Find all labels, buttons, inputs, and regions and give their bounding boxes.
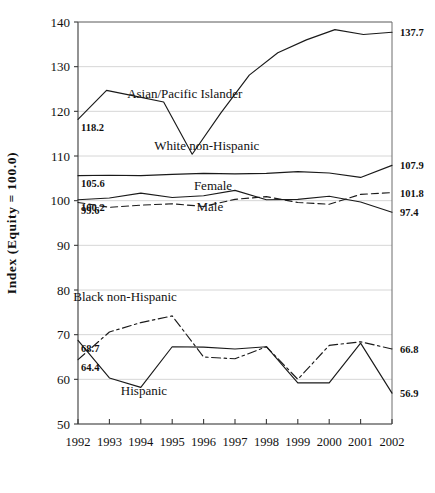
start-value-annotation: 68.7 xyxy=(81,343,99,354)
y-axis-title: Index (Equity = 100.0) xyxy=(4,152,19,294)
x-tick-label: 1992 xyxy=(66,435,91,449)
y-axis-tick-labels: 5060708090100110120130140 xyxy=(51,15,71,432)
series-label-hispanic: Hispanic xyxy=(121,383,167,398)
x-tick-label: 1996 xyxy=(191,435,216,449)
end-value-annotation: 101.8 xyxy=(400,188,424,199)
end-value-annotation: 107.9 xyxy=(400,160,424,171)
x-tick-label: 1994 xyxy=(128,435,154,449)
y-tick-label: 120 xyxy=(51,104,71,119)
y-tick-label: 140 xyxy=(51,15,71,30)
x-tick-label: 1995 xyxy=(160,435,185,449)
series-label-female: Female xyxy=(194,178,232,193)
x-axis-tick-labels: 1992199319941995199619971998199920002001… xyxy=(66,435,405,449)
y-tick-label: 80 xyxy=(57,283,70,298)
series-line-female xyxy=(78,193,392,208)
x-tick-label: 1999 xyxy=(285,435,310,449)
start-value-annotation: 99.6 xyxy=(81,205,99,216)
x-tick-label: 1997 xyxy=(223,435,248,449)
series-line-white-non-hispanic xyxy=(78,165,392,177)
end-value-annotation: 137.7 xyxy=(400,27,424,38)
line-chart: 5060708090100110120130140 19921993199419… xyxy=(0,0,435,493)
series-label-white-non-hispanic: White non-Hispanic xyxy=(154,138,259,153)
y-tick-label: 110 xyxy=(51,149,70,164)
y-tick-label: 70 xyxy=(57,327,70,342)
y-tick-label: 50 xyxy=(57,417,70,432)
x-tick-label: 2000 xyxy=(317,435,342,449)
end-value-annotation: 56.9 xyxy=(400,388,418,399)
chart-canvas: 5060708090100110120130140 19921993199419… xyxy=(0,0,435,493)
series-lines xyxy=(78,30,392,394)
series-label-male: Male xyxy=(197,199,224,214)
x-tick-label: 2002 xyxy=(380,435,405,449)
series-line-male xyxy=(78,190,392,212)
start-value-annotation: 118.2 xyxy=(81,122,104,133)
series-label-asian-pacific-islander: Asian/Pacific Islander xyxy=(127,86,243,101)
end-value-annotation: 66.8 xyxy=(400,344,418,355)
y-axis-title: Index (Equity = 100.0) xyxy=(4,152,19,294)
series-line-black-non-hispanic xyxy=(78,316,392,379)
y-tick-label: 100 xyxy=(51,193,71,208)
x-tick-label: 2001 xyxy=(348,435,373,449)
series-label-black-non-hispanic: Black non-Hispanic xyxy=(73,289,177,304)
start-value-annotation: 64.4 xyxy=(81,362,100,373)
y-tick-label: 60 xyxy=(57,372,70,387)
x-tick-label: 1993 xyxy=(97,435,122,449)
end-value-annotation: 97.4 xyxy=(400,207,419,218)
y-tick-label: 90 xyxy=(57,238,70,253)
x-tick-label: 1998 xyxy=(254,435,279,449)
y-tick-label: 130 xyxy=(51,59,71,74)
value-annotations: 118.2105.6100.299.668.764.4137.7107.9101… xyxy=(81,27,424,399)
start-value-annotation: 105.6 xyxy=(81,178,105,189)
